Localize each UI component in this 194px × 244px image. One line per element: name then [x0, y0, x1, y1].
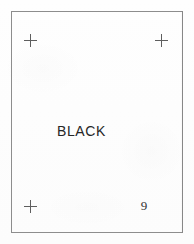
page-number: 9	[138, 198, 150, 213]
registration-cross-icon-bottom-left	[24, 200, 37, 213]
cross-vertical-bar	[30, 200, 31, 213]
scanned-page: BLACK 9	[0, 0, 194, 244]
registration-cross-icon-top-right	[155, 34, 168, 47]
color-name-label: BLACK	[57, 123, 106, 139]
cross-vertical-bar	[30, 34, 31, 47]
cross-vertical-bar	[161, 34, 162, 47]
registration-cross-icon-top-left	[24, 34, 37, 47]
